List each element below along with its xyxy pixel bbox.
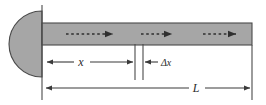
wave-tube-diagram: x Δx L: [0, 0, 266, 105]
piston-cone-icon: [9, 11, 42, 77]
dimension-L-label: L: [192, 81, 200, 95]
dimension-x-label: x: [77, 55, 84, 69]
figure-container: x Δx L: [0, 0, 266, 105]
dimension-delta-x-label: Δx: [160, 57, 172, 68]
